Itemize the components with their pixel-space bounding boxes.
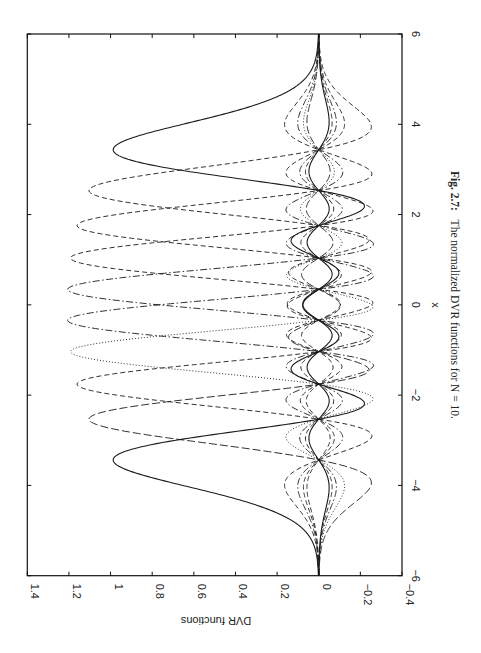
value-tick-label: 0.2: [279, 584, 291, 599]
svg-text:Fig. 2.7: The normalized: Fig. 2.7: The normalized DVR functions f…: [448, 171, 461, 419]
value-tick-label: 1: [113, 584, 125, 590]
value-tick-label: 0.6: [196, 584, 208, 599]
dvr-curve-4: [71, 34, 373, 576]
value-tick-label: 1.4: [29, 584, 41, 599]
figure: −0.4−0.200.20.40.60.811.21.4 −6−4−20246 …: [0, 0, 481, 653]
dvr-curve-7: [71, 34, 373, 576]
x-tick-label: −4: [410, 479, 422, 492]
x-tick-label: 2: [410, 212, 422, 218]
dvr-curve-10: [113, 34, 364, 576]
x-tick-label: −2: [410, 389, 422, 402]
value-axis-ticks: −0.4−0.200.20.40.60.811.21.4: [27, 34, 416, 605]
x-tick-label: 4: [410, 121, 422, 127]
dvr-curve-1: [113, 34, 364, 576]
x-tick-label: 6: [410, 31, 422, 37]
value-tick-label: 0.8: [154, 584, 166, 599]
value-tick-label: 1.2: [71, 584, 83, 599]
plot-frame: [27, 34, 402, 576]
dvr-curve-3: [77, 34, 372, 576]
value-tick-label: −0.2: [362, 584, 374, 606]
dvr-curves: [68, 34, 374, 576]
x-axis-title: x: [430, 302, 442, 308]
value-axis-title: DVR functions: [180, 615, 251, 627]
x-tick-label: −6: [410, 569, 422, 582]
x-tick-label: 0: [410, 302, 422, 308]
value-tick-label: 0.4: [237, 584, 249, 599]
value-tick-label: 0: [321, 584, 333, 590]
value-tick-label: −0.4: [404, 584, 416, 606]
dvr-curve-8: [77, 34, 372, 576]
caption-label: Fig. 2.7:: [448, 171, 461, 211]
figure-caption: Fig. 2.7: The normalized DVR functions f…: [448, 171, 461, 419]
caption-text: The normalized DVR functions for N = 10.: [449, 220, 461, 420]
